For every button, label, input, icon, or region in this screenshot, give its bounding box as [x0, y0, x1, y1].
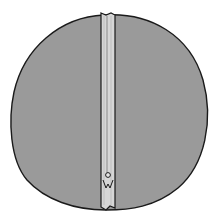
illustration-canvas: [0, 0, 218, 224]
zippered-cushion-illustration: [0, 0, 218, 224]
